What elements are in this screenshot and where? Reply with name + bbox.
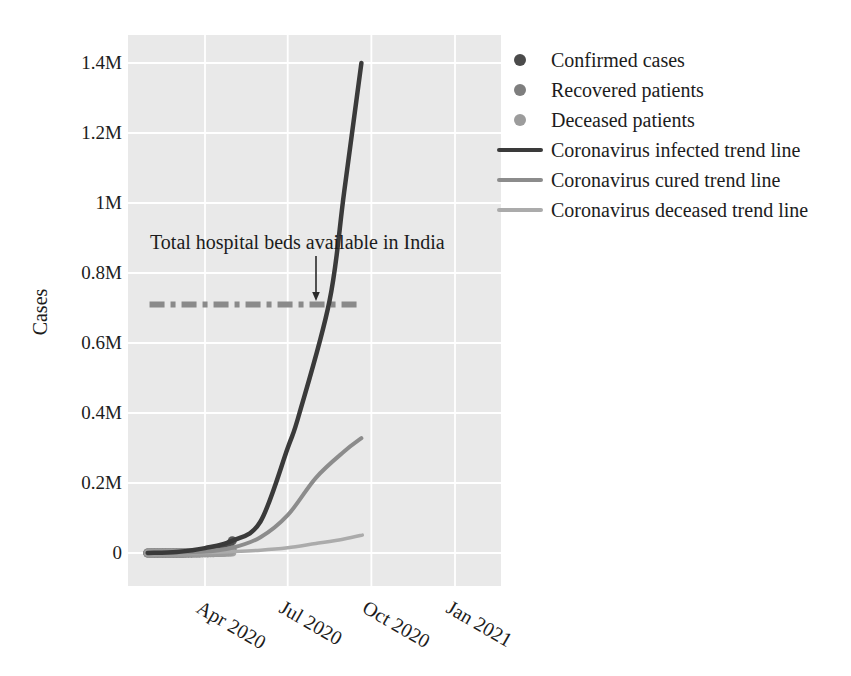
legend-label: Coronavirus cured trend line — [545, 169, 780, 192]
figure: Cases 1.4M1.2M1M0.8M0.6M0.4M0.2M0 Apr 20… — [0, 0, 851, 676]
line-icon — [497, 208, 543, 212]
legend: Confirmed casesRecovered patientsDecease… — [495, 45, 808, 225]
legend-row: Coronavirus deceased trend line — [495, 195, 808, 225]
dot-icon — [514, 84, 526, 96]
legend-label: Deceased patients — [545, 109, 695, 132]
legend-label: Confirmed cases — [545, 49, 685, 72]
dot-icon — [514, 114, 526, 126]
legend-dot-marker — [495, 84, 545, 96]
plot-background — [128, 35, 501, 586]
y-axis-title: Cases — [28, 271, 52, 353]
x-tick-label: Apr 2020 — [193, 596, 270, 654]
legend-dot-marker — [495, 114, 545, 126]
x-tick-label: Oct 2020 — [359, 596, 434, 653]
legend-row: Deceased patients — [495, 105, 808, 135]
legend-label: Recovered patients — [545, 79, 704, 102]
y-tick-label: 0.4M — [52, 401, 122, 425]
annotation-text: Total hospital beds available in India — [150, 231, 445, 254]
y-tick-label: 1.4M — [52, 51, 122, 75]
legend-line-marker — [495, 208, 545, 212]
y-tick-label: 0.2M — [52, 471, 122, 495]
legend-row: Recovered patients — [495, 75, 808, 105]
line-icon — [497, 148, 543, 152]
y-tick-label: 0 — [52, 541, 122, 565]
x-tick-label: Jan 2021 — [443, 596, 517, 652]
y-tick-label: 1.2M — [52, 121, 122, 145]
y-tick-label: 1M — [52, 191, 122, 215]
legend-line-marker — [495, 178, 545, 182]
legend-row: Coronavirus infected trend line — [495, 135, 808, 165]
legend-dot-marker — [495, 54, 545, 66]
legend-row: Coronavirus cured trend line — [495, 165, 808, 195]
plot-area — [128, 35, 501, 586]
y-tick-label: 0.8M — [52, 261, 122, 285]
x-tick-label: Jul 2020 — [275, 596, 346, 650]
line-icon — [497, 178, 543, 182]
legend-label: Coronavirus deceased trend line — [545, 199, 808, 222]
dot-icon — [514, 54, 526, 66]
y-tick-label: 0.6M — [52, 331, 122, 355]
chart-svg — [128, 35, 501, 586]
legend-row: Confirmed cases — [495, 45, 808, 75]
legend-label: Coronavirus infected trend line — [545, 139, 800, 162]
legend-line-marker — [495, 148, 545, 152]
